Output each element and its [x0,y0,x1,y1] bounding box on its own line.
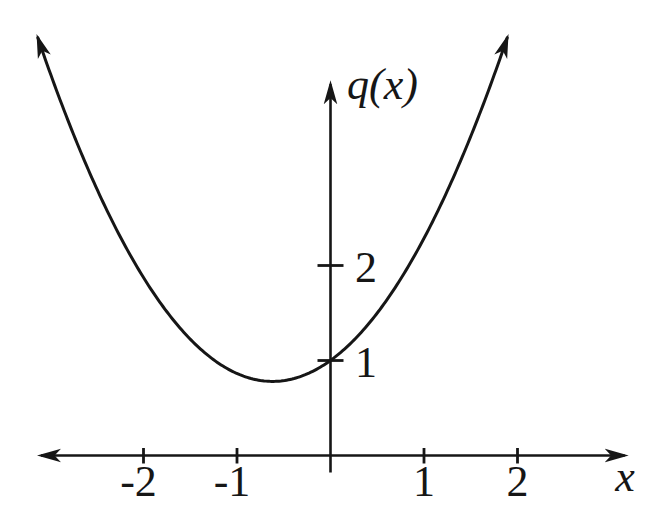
y-axis-label: q(x) [347,60,418,109]
figure-canvas: -2-11212 q(x) x [0,0,664,522]
parabola-curve [38,38,507,382]
y-tick-label: 1 [355,338,377,387]
x-axis-label: x [614,452,635,501]
curve-layer [38,38,507,382]
tick-layer: -2-11212 [120,243,528,507]
x-tick-label: -2 [120,457,157,506]
axes-layer [41,84,625,472]
x-tick-label: 1 [413,457,435,506]
x-tick-label: 2 [507,457,529,506]
x-tick-label: -1 [214,457,251,506]
y-tick-label: 2 [355,243,377,292]
quadratic-function-figure: -2-11212 q(x) x [0,0,664,522]
